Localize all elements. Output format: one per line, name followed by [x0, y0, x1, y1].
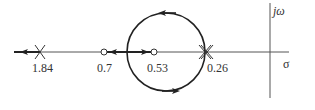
- root-locus-diagram: 1.84 0.7 0.53 0.26 σ jω: [0, 0, 315, 110]
- imaginary-axis-label: jω: [271, 4, 285, 18]
- zero-label-0.53: 0.53: [147, 61, 168, 75]
- zero-label-0.7: 0.7: [97, 61, 112, 75]
- zero-marker-0.53: [151, 49, 157, 55]
- zero-marker-0.7: [101, 49, 107, 55]
- pole-label-1.84: 1.84: [32, 61, 53, 75]
- pole-label-0.26: 0.26: [207, 61, 228, 75]
- real-axis-label: σ: [283, 57, 290, 71]
